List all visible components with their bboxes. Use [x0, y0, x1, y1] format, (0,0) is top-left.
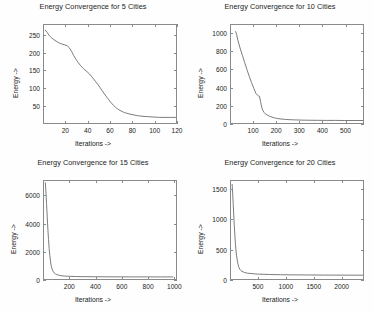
- data-line-energy: [45, 30, 176, 118]
- y-axis-tick-mark-right: [361, 69, 364, 70]
- x-axis-tick-mark: [177, 121, 178, 124]
- x-axis-tick-label: 800: [143, 283, 154, 290]
- series-canvas: [44, 25, 176, 123]
- y-axis-tick-mark: [230, 69, 233, 70]
- y-axis-tick-label: 1000: [187, 30, 227, 37]
- plot-area: [230, 24, 364, 124]
- plot-area: [43, 24, 177, 124]
- y-axis-tick-mark: [43, 106, 46, 107]
- y-axis-tick-label: 600: [187, 66, 227, 73]
- y-axis-tick-mark-right: [174, 70, 177, 71]
- y-axis-tick-mark: [43, 195, 46, 196]
- series-canvas: [44, 181, 176, 279]
- x-axis-tick-mark-top: [322, 24, 323, 27]
- y-axis-tick-mark-right: [174, 280, 177, 281]
- x-axis-tick-label: 20: [62, 127, 69, 134]
- x-axis-tick-label: 400: [90, 283, 101, 290]
- y-axis-tick-mark: [43, 53, 46, 54]
- x-axis-tick-mark: [174, 277, 175, 280]
- x-axis-tick-mark-top: [253, 24, 254, 27]
- x-axis-tick-mark-top: [276, 24, 277, 27]
- x-axis-tick-mark-top: [69, 180, 70, 183]
- x-axis-tick-mark-top: [148, 180, 149, 183]
- x-axis-tick-mark: [342, 277, 343, 280]
- x-axis-tick-mark: [122, 277, 123, 280]
- y-axis-tick-mark: [230, 189, 233, 190]
- y-axis-tick-mark-right: [361, 51, 364, 52]
- x-axis-tick-mark-top: [110, 24, 111, 27]
- x-axis-tick-mark: [96, 277, 97, 280]
- y-axis-tick-mark: [43, 70, 46, 71]
- x-axis-tick-mark: [346, 121, 347, 124]
- x-axis-tick-label: 1000: [167, 283, 182, 290]
- y-axis-tick-mark: [230, 33, 233, 34]
- x-axis-tick-mark-top: [177, 24, 178, 27]
- x-axis-tick-label: 400: [317, 127, 328, 134]
- chart-panel-15-cities: Energy Convergence for 15 Cities Iterati…: [0, 158, 186, 313]
- x-axis-tick-mark: [155, 121, 156, 124]
- x-axis-tick-label: 500: [252, 283, 263, 290]
- y-axis-tick-mark-right: [361, 250, 364, 251]
- x-axis-tick-mark-top: [174, 180, 175, 183]
- x-axis-tick-mark-top: [314, 180, 315, 183]
- series-canvas: [231, 25, 363, 123]
- y-axis-tick-label: 0: [187, 121, 227, 128]
- x-axis-tick-label: 80: [129, 127, 136, 134]
- y-axis-tick-label: 0: [0, 277, 40, 284]
- y-axis-tick-mark-right: [174, 224, 177, 225]
- x-axis-tick-mark: [110, 121, 111, 124]
- x-axis-tick-label: 1500: [306, 283, 321, 290]
- x-axis-tick-mark-top: [122, 180, 123, 183]
- x-axis-tick-label: 200: [64, 283, 75, 290]
- plot-area: [230, 180, 364, 280]
- data-line-energy: [232, 184, 363, 275]
- y-axis-tick-mark-right: [361, 33, 364, 34]
- chart-title: Energy Convergence for 20 Cities: [187, 158, 373, 167]
- y-axis-tick-mark-right: [361, 124, 364, 125]
- chart-title: Energy Convergence for 10 Cities: [187, 2, 373, 11]
- matlab-figure-window: Energy Convergence for 5 Cities Iteratio…: [0, 0, 373, 314]
- x-axis-tick-mark-top: [65, 24, 66, 27]
- x-axis-tick-mark: [299, 121, 300, 124]
- y-axis-tick-mark-right: [361, 189, 364, 190]
- y-axis-tick-mark: [230, 106, 233, 107]
- y-axis-tick-mark: [230, 51, 233, 52]
- x-axis-tick-label: 200: [271, 127, 282, 134]
- x-axis-tick-mark: [88, 121, 89, 124]
- x-axis-label: Iterations ->: [187, 296, 373, 303]
- y-axis-tick-label: 6000: [0, 192, 40, 199]
- y-axis-tick-mark: [230, 88, 233, 89]
- y-axis-tick-label: 200: [0, 49, 40, 56]
- y-axis-tick-label: 400: [187, 84, 227, 91]
- y-axis-tick-mark: [43, 252, 46, 253]
- x-axis-tick-mark: [65, 121, 66, 124]
- chart-panel-5-cities: Energy Convergence for 5 Cities Iteratio…: [0, 2, 186, 157]
- x-axis-tick-label: 300: [294, 127, 305, 134]
- x-axis-tick-label: 2000: [334, 283, 349, 290]
- y-axis-tick-label: 150: [0, 67, 40, 74]
- x-axis-tick-label: 120: [171, 127, 182, 134]
- x-axis-tick-label: 600: [116, 283, 127, 290]
- y-axis-tick-mark: [230, 280, 233, 281]
- y-axis-tick-label: 0: [187, 277, 227, 284]
- y-axis-tick-label: 2000: [0, 248, 40, 255]
- data-line-energy: [45, 182, 173, 277]
- y-axis-tick-label: 500: [187, 246, 227, 253]
- x-axis-tick-mark: [69, 277, 70, 280]
- series-canvas: [231, 181, 363, 279]
- x-axis-label: Iterations ->: [0, 140, 186, 147]
- chart-panel-10-cities: Energy Convergence for 10 Cities Iterati…: [187, 2, 373, 157]
- chart-title: Energy Convergence for 5 Cities: [0, 2, 186, 11]
- x-axis-tick-mark: [258, 277, 259, 280]
- x-axis-tick-mark-top: [132, 24, 133, 27]
- x-axis-tick-mark-top: [346, 24, 347, 27]
- x-axis-tick-label: 100: [149, 127, 160, 134]
- y-axis-tick-label: 4000: [0, 220, 40, 227]
- x-axis-label: Iterations ->: [0, 296, 186, 303]
- y-axis-tick-mark-right: [361, 219, 364, 220]
- x-axis-tick-mark-top: [155, 24, 156, 27]
- y-axis-tick-mark: [43, 224, 46, 225]
- y-axis-tick-mark: [230, 219, 233, 220]
- x-axis-tick-mark: [148, 277, 149, 280]
- x-axis-tick-mark: [132, 121, 133, 124]
